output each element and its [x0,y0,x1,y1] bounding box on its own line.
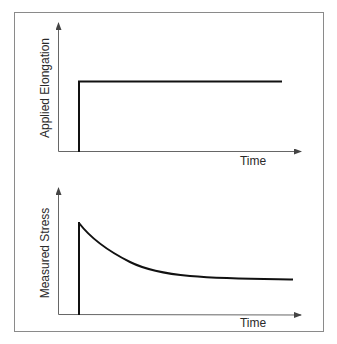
top-chart [59,23,302,152]
bottom-chart [59,188,302,315]
bottom-x-axis-title: Time [240,316,266,330]
bottom-y-axis-title: Measured Stress [38,208,52,299]
elongation-step-line [79,82,282,153]
top-x-axis-title: Time [240,154,266,168]
stress-relaxation-curve [79,223,293,280]
bottom-x-axis [59,315,302,316]
top-y-axis-title: Applied Elongation [38,38,52,138]
